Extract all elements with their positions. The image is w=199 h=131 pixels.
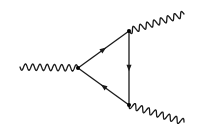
vertex-bottom	[127, 103, 131, 107]
vertex-top	[127, 29, 131, 33]
boson-line-left	[20, 64, 78, 71]
arrow-icon	[99, 48, 106, 54]
arrow-icon	[101, 85, 108, 91]
arrow-icon	[126, 65, 131, 71]
boson-line-top-right	[129, 11, 184, 33]
boson-line-bottom-right	[129, 104, 184, 124]
feynman-triangle-diagram	[0, 0, 199, 131]
vertex-left	[76, 66, 80, 70]
